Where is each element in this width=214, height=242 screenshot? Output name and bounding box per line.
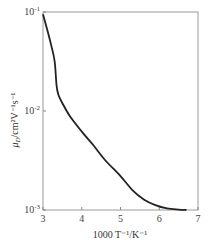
mobility-chart: 34567 10-110-210-3 1000 T⁻¹/K⁻¹ μD/cm²V⁻… [0,0,214,242]
svg-text:μD/cm²V⁻¹s⁻¹: μD/cm²V⁻¹s⁻¹ [9,92,22,148]
y-axis-label: μD/cm²V⁻¹s⁻¹ [9,92,22,148]
x-tick-label: 6 [157,213,162,224]
y-tick-label: 10-2 [24,104,40,116]
x-tick-label: 5 [118,213,123,224]
x-axis-label: 1000 T⁻¹/K⁻¹ [93,229,147,240]
x-tick-label: 3 [41,213,46,224]
x-tick-label: 4 [79,213,84,224]
y-tick-label: 10-1 [24,5,40,17]
mobility-curve [43,14,186,210]
y-tick-label: 10-3 [24,203,40,215]
x-tick-label: 7 [196,213,201,224]
